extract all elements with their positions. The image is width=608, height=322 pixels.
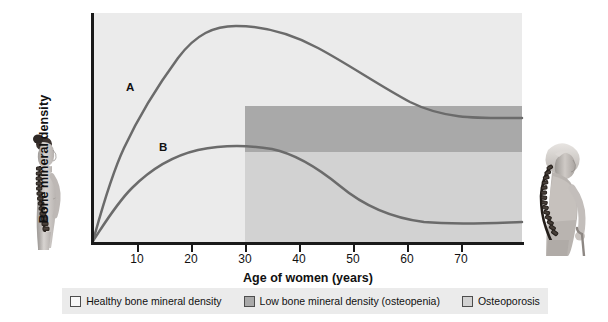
legend-item-osteopenia: Low bone mineral density (osteopenia) — [244, 295, 440, 307]
y-axis-label: Bone mineral density — [37, 84, 51, 234]
y-axis — [91, 13, 94, 245]
legend-label-osteoporosis: Osteoporosis — [478, 295, 540, 307]
x-ticklabel-40: 40 — [279, 252, 319, 266]
legend-label-osteopenia: Low bone mineral density (osteopenia) — [260, 295, 440, 307]
x-ticklabel-60: 60 — [387, 252, 427, 266]
x-tick-40 — [299, 245, 301, 252]
x-tick-10 — [137, 245, 139, 252]
x-ticklabel-50: 50 — [333, 252, 373, 266]
curve-b — [93, 146, 522, 241]
x-tick-30 — [245, 245, 247, 252]
x-axis — [91, 242, 524, 245]
x-tick-50 — [353, 245, 355, 252]
legend-swatch-healthy — [70, 296, 81, 307]
legend: Healthy bone mineral density Low bone mi… — [62, 288, 548, 314]
legend-swatch-osteopenia — [244, 296, 255, 307]
curve-a — [93, 26, 522, 241]
x-ticklabel-30: 30 — [225, 252, 265, 266]
x-tick-70 — [461, 245, 463, 252]
legend-label-healthy: Healthy bone mineral density — [86, 295, 221, 307]
x-ticklabel-10: 10 — [117, 252, 157, 266]
x-ticklabel-20: 20 — [171, 252, 211, 266]
curve-b-label: B — [159, 141, 167, 153]
legend-item-osteoporosis: Osteoporosis — [462, 295, 540, 307]
x-ticklabel-70: 70 — [441, 252, 481, 266]
bone-density-figure: 10 20 30 40 50 60 70 A B Bone mineral de… — [0, 0, 608, 322]
curve-a-label: A — [126, 81, 134, 93]
legend-swatch-osteoporosis — [462, 296, 473, 307]
x-axis-label: Age of women (years) — [148, 271, 468, 285]
legend-item-healthy: Healthy bone mineral density — [70, 295, 221, 307]
x-tick-60 — [407, 245, 409, 252]
x-tick-20 — [191, 245, 193, 252]
